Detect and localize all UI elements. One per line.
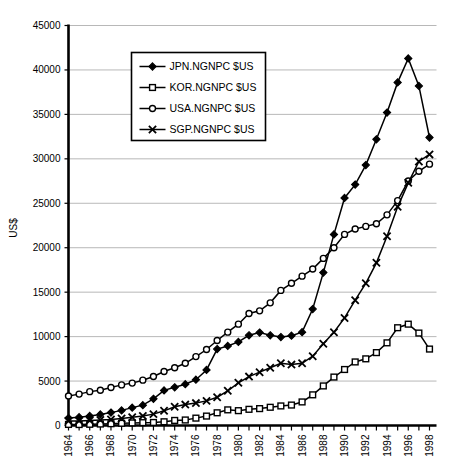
marker-filled-diamond <box>277 333 284 340</box>
marker-open-square <box>352 359 358 365</box>
marker-x-cross <box>245 373 252 380</box>
y-tick-label: 30000 <box>33 153 61 164</box>
marker-filled-diamond <box>330 231 337 238</box>
marker-x-cross <box>235 379 242 386</box>
legend-label: JPN.NGNPC $US <box>170 60 254 72</box>
marker-open-circle <box>87 389 93 395</box>
y-tick-label: 0 <box>55 420 61 431</box>
marker-x-cross <box>320 340 327 347</box>
marker-open-circle <box>352 226 358 232</box>
marker-open-circle <box>299 273 305 279</box>
marker-filled-diamond <box>288 332 295 339</box>
x-tick-label: 1998 <box>424 434 435 457</box>
marker-open-circle <box>267 300 273 306</box>
marker-x-cross <box>224 387 231 394</box>
series-line <box>69 164 430 396</box>
marker-filled-diamond <box>394 79 401 86</box>
marker-open-circle <box>225 329 231 335</box>
y-axis-tick-labels: 0500010000150002000025000300003500040000… <box>33 20 61 431</box>
marker-x-cross <box>352 297 359 304</box>
marker-open-circle <box>66 393 72 399</box>
legend-label: USA.NGNPC $US <box>170 102 256 114</box>
y-tick-label: 20000 <box>33 242 61 253</box>
marker-x-cross <box>394 203 401 210</box>
marker-open-circle <box>257 308 263 314</box>
marker-open-square <box>320 383 326 389</box>
marker-open-square <box>182 417 188 423</box>
marker-open-circle <box>246 311 252 317</box>
marker-filled-diamond <box>171 384 178 391</box>
marker-open-circle <box>288 280 294 286</box>
x-tick-label: 1990 <box>339 434 350 457</box>
marker-open-circle <box>342 231 348 237</box>
chart-legend: JPN.NGNPC $USKOR.NGNPC $USUSA.NGNPC $USS… <box>132 53 266 141</box>
x-tick-label: 1968 <box>105 434 116 457</box>
marker-open-square <box>299 399 305 405</box>
marker-open-square <box>310 392 316 398</box>
marker-open-square <box>278 403 284 409</box>
marker-filled-diamond <box>405 55 412 62</box>
marker-open-square <box>140 420 146 426</box>
marker-filled-diamond <box>214 345 221 352</box>
x-tick-label: 1992 <box>360 434 371 457</box>
marker-open-circle <box>140 377 146 383</box>
marker-x-cross <box>362 280 369 287</box>
marker-open-circle <box>310 266 316 272</box>
marker-open-circle <box>76 391 82 397</box>
marker-open-square <box>384 340 390 346</box>
marker-open-circle <box>193 354 199 360</box>
marker-open-circle <box>373 221 379 227</box>
marker-x-cross <box>309 353 316 360</box>
x-tick-label: 1994 <box>382 434 393 457</box>
x-tick-label: 1964 <box>63 434 74 457</box>
marker-open-square <box>427 346 433 352</box>
x-tick-label: 1974 <box>169 434 180 457</box>
y-tick-label: 35000 <box>33 109 61 120</box>
marker-open-circle <box>182 360 188 366</box>
x-tick-label: 1980 <box>233 434 244 457</box>
marker-x-cross <box>330 329 337 336</box>
x-tick-label: 1970 <box>127 434 138 457</box>
marker-filled-diamond <box>182 381 189 388</box>
marker-open-square <box>161 419 167 425</box>
marker-open-circle <box>97 387 103 393</box>
marker-open-circle <box>204 347 210 353</box>
marker-open-circle <box>108 384 114 390</box>
marker-open-circle <box>150 373 156 379</box>
y-axis-title-text: US$ <box>8 218 19 238</box>
marker-open-square <box>395 325 401 331</box>
marker-x-cross <box>341 314 348 321</box>
marker-filled-diamond <box>309 305 316 312</box>
y-axis-title: US$ <box>8 218 19 238</box>
y-tick-label: 15000 <box>33 287 61 298</box>
marker-open-circle <box>119 382 125 388</box>
marker-open-square <box>129 420 135 426</box>
marker-open-circle <box>278 287 284 293</box>
marker-filled-diamond <box>118 407 125 414</box>
marker-filled-diamond <box>267 332 274 339</box>
x-tick-label: 1976 <box>190 434 201 457</box>
y-tick-label: 45000 <box>33 20 61 31</box>
marker-open-circle <box>214 338 220 344</box>
marker-x-cross <box>267 364 274 371</box>
marker-open-square <box>246 406 252 412</box>
x-tick-label: 1996 <box>403 434 414 457</box>
marker-open-square <box>257 406 263 412</box>
marker-open-circle <box>416 168 422 174</box>
marker-filled-diamond <box>298 329 305 336</box>
marker-filled-diamond <box>383 109 390 116</box>
marker-open-circle <box>331 245 337 251</box>
marker-open-square <box>363 356 369 362</box>
marker-filled-diamond <box>129 404 136 411</box>
marker-filled-diamond <box>256 329 263 336</box>
marker-open-square <box>151 420 157 426</box>
marker-filled-diamond <box>224 342 231 349</box>
marker-filled-diamond <box>373 136 380 143</box>
marker-x-cross <box>383 233 390 240</box>
marker-open-square <box>204 413 210 419</box>
marker-x-cross <box>256 369 263 376</box>
y-tick-label: 5000 <box>38 376 61 387</box>
marker-open-circle <box>384 212 390 218</box>
marker-open-square <box>289 402 295 408</box>
marker-open-circle <box>363 223 369 229</box>
